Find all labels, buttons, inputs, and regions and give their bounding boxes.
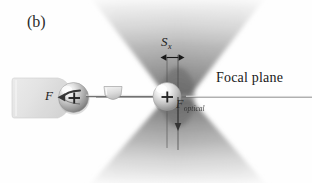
displacement-subscript: x	[168, 42, 172, 51]
focal-plane-label: Focal plane	[216, 71, 283, 85]
optical-force-subscript: optical	[184, 104, 205, 113]
optical-force-label: Foptical	[176, 98, 205, 113]
optical-trap-figure: (b) F Sx Foptical Focal plane	[0, 0, 312, 183]
displacement-label: Sx	[161, 35, 172, 51]
panel-label: (b)	[27, 14, 46, 30]
pulling-force-label: F	[45, 89, 53, 102]
optical-force-symbol: F	[176, 97, 183, 111]
displacement-symbol: S	[161, 34, 168, 49]
